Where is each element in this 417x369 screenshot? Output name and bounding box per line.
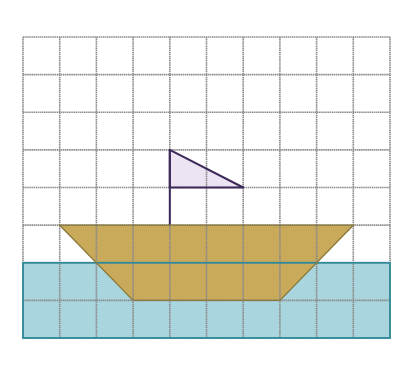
boat-grid-diagram	[0, 0, 417, 369]
